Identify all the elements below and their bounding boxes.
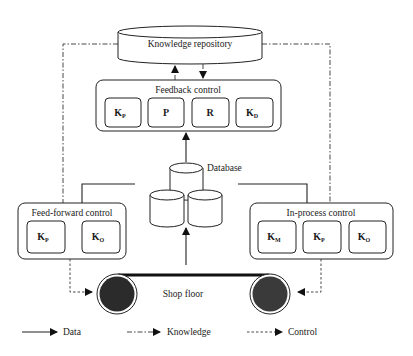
control-arrow-to-left-roller <box>70 259 92 292</box>
feedforward-item-ko: KO <box>82 221 120 253</box>
database-label: Database <box>207 163 242 173</box>
feed-forward-control-title: Feed-forward control <box>32 208 113 218</box>
svg-text:Data: Data <box>63 327 82 337</box>
knowledge-repository-label: Knowledge repository <box>148 39 233 49</box>
legend: Data Knowledge Control <box>22 327 317 337</box>
svg-text:Control: Control <box>288 327 317 337</box>
svg-text:P: P <box>163 107 169 118</box>
feedback-item-kd: KD <box>236 98 273 127</box>
shop-floor-conveyor: Shop floor <box>97 274 290 314</box>
inprocess-item-kp: KP <box>303 221 341 253</box>
feedback-item-p: P <box>148 98 184 127</box>
knowledge-control-diagram: Knowledge repository Feedback control KP… <box>0 0 413 356</box>
control-arrow-to-right-roller <box>298 259 321 292</box>
feedback-control-title: Feedback control <box>155 85 221 95</box>
feedback-item-kp: KP <box>105 98 141 127</box>
legend-control: Control <box>247 327 317 337</box>
in-process-control-title: In-process control <box>287 208 356 218</box>
feedforward-item-kp: KP <box>27 221 65 253</box>
feedback-item-r: R <box>192 98 229 127</box>
database-cylinder-left <box>150 190 184 227</box>
feed-forward-control-box: Feed-forward control KP KO <box>18 203 126 259</box>
database-cylinder-right <box>188 190 222 227</box>
inprocess-item-km: KM <box>258 221 296 253</box>
inprocess-item-ko: KO <box>349 221 386 253</box>
in-process-control-box: In-process control KM KP KO <box>250 203 393 259</box>
svg-text:R: R <box>206 107 214 118</box>
feedback-control-box: Feedback control KP P R KD <box>96 80 281 131</box>
knowledge-repository: Knowledge repository <box>118 26 262 64</box>
right-roller <box>250 274 290 314</box>
left-roller <box>97 274 137 314</box>
legend-data: Data <box>22 327 82 337</box>
legend-knowledge: Knowledge <box>127 327 211 337</box>
shop-floor-label: Shop floor <box>163 289 204 299</box>
database: Database <box>150 163 242 227</box>
svg-text:Knowledge: Knowledge <box>167 327 211 337</box>
